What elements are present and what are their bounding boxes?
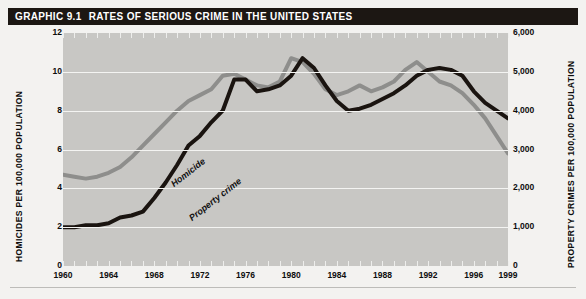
tick-mark bbox=[508, 33, 509, 38]
footer-rule bbox=[10, 287, 576, 288]
x-tick: 1964 bbox=[99, 270, 118, 280]
tick-mark bbox=[462, 261, 463, 266]
tick-mark bbox=[189, 33, 190, 38]
tick-mark bbox=[154, 33, 155, 38]
tick-mark bbox=[166, 33, 167, 38]
tick-mark bbox=[166, 261, 167, 266]
x-tick: 1972 bbox=[190, 270, 209, 280]
y-tick-right: 4,000 bbox=[513, 105, 534, 115]
tick-mark bbox=[474, 33, 475, 38]
tick-mark bbox=[360, 261, 361, 266]
tick-mark bbox=[440, 33, 441, 38]
tick-mark bbox=[234, 261, 235, 266]
gridline bbox=[63, 188, 508, 189]
x-tick: 1988 bbox=[373, 270, 392, 280]
x-tick: 1984 bbox=[327, 270, 346, 280]
tick-mark bbox=[325, 261, 326, 266]
tick-mark bbox=[371, 33, 372, 38]
tick-mark bbox=[394, 261, 395, 266]
y-tick-right: 6,000 bbox=[513, 27, 534, 37]
plot-area: Homicide Property crime bbox=[63, 33, 508, 266]
tick-mark bbox=[325, 33, 326, 38]
x-tick: 1980 bbox=[282, 270, 301, 280]
tick-mark bbox=[211, 261, 212, 266]
tick-mark bbox=[371, 261, 372, 266]
tick-mark bbox=[303, 261, 304, 266]
tick-mark bbox=[314, 261, 315, 266]
tick-mark bbox=[143, 33, 144, 38]
tick-mark bbox=[131, 261, 132, 266]
tick-mark bbox=[417, 261, 418, 266]
tick-mark bbox=[405, 261, 406, 266]
figure-header-bar: GRAPHIC 9.1 RATES OF SERIOUS CRIME IN TH… bbox=[8, 8, 578, 25]
tick-mark bbox=[120, 33, 121, 38]
tick-mark bbox=[485, 33, 486, 38]
y-tick-right: 0 bbox=[513, 260, 518, 270]
gridline bbox=[63, 227, 508, 228]
tick-mark bbox=[234, 33, 235, 38]
gridline bbox=[63, 111, 508, 112]
tick-mark bbox=[280, 33, 281, 38]
tick-mark bbox=[348, 33, 349, 38]
y-tick-left: 6 bbox=[57, 144, 62, 154]
tick-mark bbox=[223, 33, 224, 38]
tick-mark bbox=[154, 261, 155, 266]
x-tick: 1992 bbox=[419, 270, 438, 280]
tick-mark bbox=[428, 33, 429, 38]
tick-mark bbox=[131, 33, 132, 38]
tick-mark bbox=[177, 261, 178, 266]
tick-mark bbox=[211, 33, 212, 38]
tick-mark bbox=[109, 261, 110, 266]
tick-mark bbox=[485, 261, 486, 266]
tick-mark bbox=[86, 261, 87, 266]
tick-mark bbox=[382, 261, 383, 266]
tick-mark bbox=[440, 261, 441, 266]
figure-title: RATES OF SERIOUS CRIME IN THE UNITED STA… bbox=[82, 11, 353, 22]
tick-mark bbox=[257, 33, 258, 38]
gridline bbox=[63, 72, 508, 73]
tick-mark bbox=[200, 261, 201, 266]
tick-mark bbox=[394, 33, 395, 38]
x-tick: 1996 bbox=[464, 270, 483, 280]
tick-mark bbox=[382, 33, 383, 38]
tick-mark bbox=[337, 261, 338, 266]
tick-mark bbox=[451, 33, 452, 38]
tick-mark bbox=[314, 33, 315, 38]
tick-mark bbox=[177, 33, 178, 38]
figure-container: GRAPHIC 9.1 RATES OF SERIOUS CRIME IN TH… bbox=[0, 0, 586, 299]
tick-mark bbox=[86, 33, 87, 38]
y-axis-left-title: HOMICIDES PER 100,000 POPULATION bbox=[14, 91, 24, 262]
tick-mark bbox=[291, 261, 292, 266]
y-tick-left: 10 bbox=[53, 66, 62, 76]
y-tick-left: 2 bbox=[57, 221, 62, 231]
tick-mark bbox=[246, 261, 247, 266]
y-tick-right: 1,000 bbox=[513, 221, 534, 231]
tick-mark bbox=[474, 261, 475, 266]
tick-mark bbox=[97, 261, 98, 266]
tick-mark bbox=[428, 261, 429, 266]
tick-mark bbox=[63, 33, 64, 38]
tick-mark bbox=[417, 33, 418, 38]
tick-mark bbox=[280, 261, 281, 266]
tick-mark bbox=[462, 33, 463, 38]
tick-mark bbox=[63, 261, 64, 266]
x-tick: 1960 bbox=[54, 270, 73, 280]
tick-mark bbox=[405, 33, 406, 38]
tick-mark bbox=[268, 261, 269, 266]
tick-mark bbox=[74, 33, 75, 38]
tick-mark bbox=[223, 261, 224, 266]
tick-mark bbox=[200, 33, 201, 38]
property-crime-line bbox=[63, 58, 508, 178]
tick-mark bbox=[268, 33, 269, 38]
tick-mark bbox=[451, 261, 452, 266]
tick-mark bbox=[497, 33, 498, 38]
tick-mark bbox=[291, 33, 292, 38]
y-tick-left: 12 bbox=[53, 27, 62, 37]
y-tick-left: 4 bbox=[57, 182, 62, 192]
graphic-number: GRAPHIC 9.1 bbox=[8, 11, 82, 22]
tick-mark bbox=[337, 33, 338, 38]
tick-mark bbox=[97, 33, 98, 38]
y-tick-right: 3,000 bbox=[513, 144, 534, 154]
tick-mark bbox=[257, 261, 258, 266]
y-axis-right-title: PROPERTY CRIMES PER 100,000 POPULATION bbox=[566, 60, 576, 268]
